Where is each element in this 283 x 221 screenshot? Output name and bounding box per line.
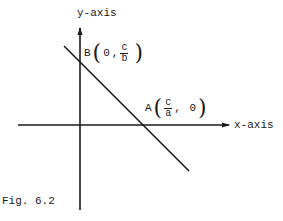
left-paren: ( (93, 42, 102, 64)
point-a-y: 0 (189, 103, 196, 114)
right-paren: ) (198, 97, 207, 119)
point-b-name: B (84, 48, 91, 59)
point-b-y-denominator: b (121, 54, 127, 64)
diagram-canvas (0, 0, 283, 221)
point-b-y-fraction: c b (120, 43, 128, 64)
right-paren: ) (134, 42, 143, 64)
point-a-label: A ( c a , 0 ) (145, 97, 207, 119)
left-paren: ( (154, 97, 163, 119)
point-a-x-fraction: c a (164, 98, 172, 119)
point-b-x: 0 (103, 48, 110, 59)
figure-caption: Fig. 6.2 (2, 196, 55, 207)
point-a-name: A (145, 103, 152, 114)
point-b-y-numerator: c (120, 43, 128, 54)
point-a-x-denominator: a (165, 109, 171, 119)
point-b-label: B ( 0, c b ) (84, 42, 143, 64)
y-axis-label: y-axis (77, 8, 117, 19)
point-a-x-numerator: c (164, 98, 172, 109)
x-axis-label: x-axis (234, 120, 274, 131)
